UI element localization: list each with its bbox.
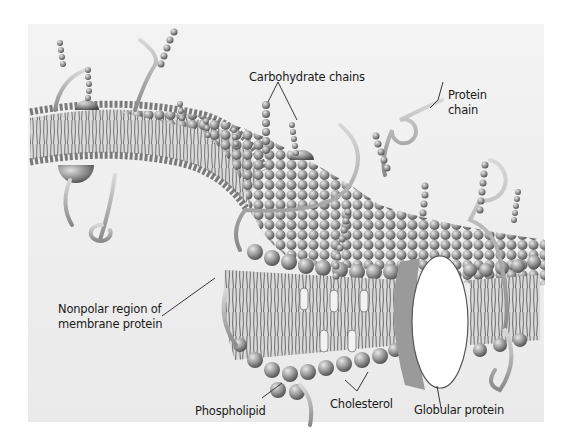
globular-protein-shape (394, 256, 468, 390)
label-phospholipid: Phospholipid (195, 404, 266, 418)
label-carbohydrate-chains: Carbohydrate chains (249, 70, 365, 84)
bilayer-interior (224, 270, 540, 360)
membrane-illustration (0, 0, 565, 436)
left-globular-protein (58, 165, 94, 183)
label-protein-chain-line2: chain (448, 103, 478, 117)
label-nonpolar-line1: Nonpolar region of (58, 302, 161, 316)
label-cholesterol: Cholesterol (330, 397, 393, 411)
label-nonpolar-line2: membrane protein (58, 317, 162, 331)
label-globular-protein: Globular protein (414, 403, 504, 417)
label-protein-chain-line1: Protein (448, 88, 487, 102)
